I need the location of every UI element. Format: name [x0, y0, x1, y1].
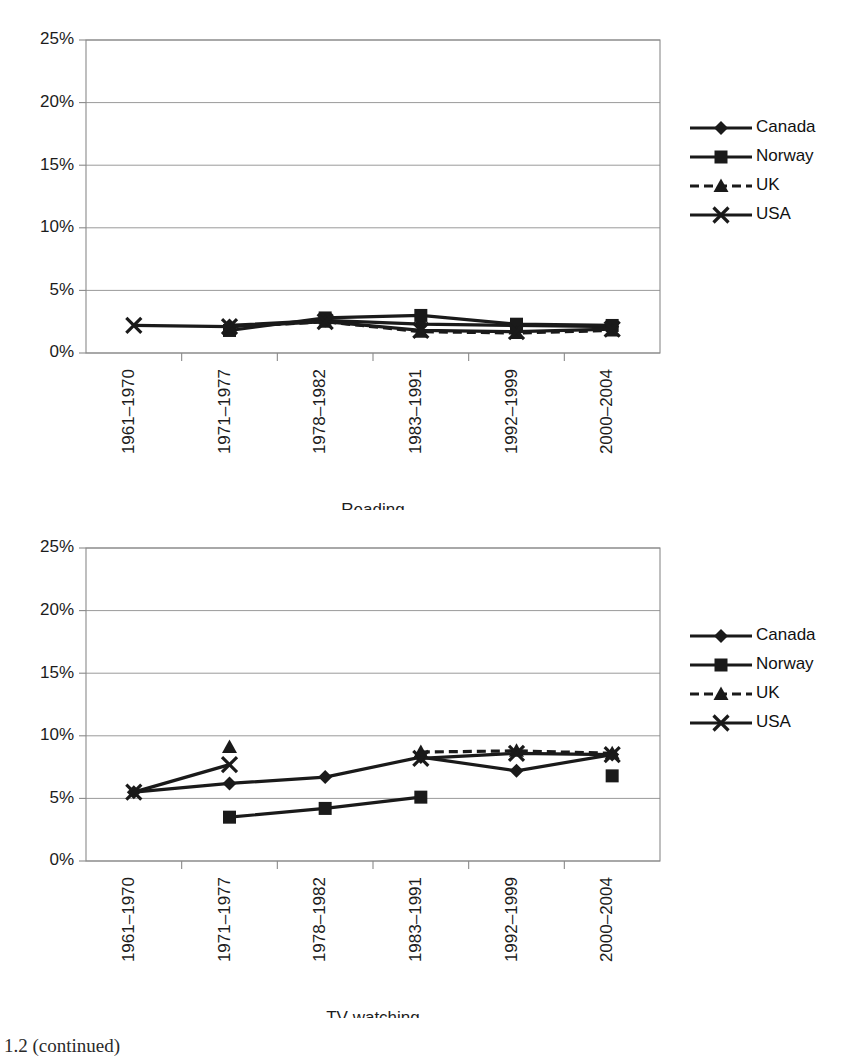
legend-label-usa: USA	[756, 204, 792, 223]
chart-reading-svg: 0%5%10%15%20%25%1961–19701971–19771978–1…	[0, 10, 856, 510]
x-tick-label-5: 2000–2004	[597, 369, 616, 454]
x-tick-label-0: 1961–1970	[119, 369, 138, 454]
x-tick-label-1: 1971–1977	[215, 877, 234, 962]
legend-norway-square-marker	[715, 151, 728, 164]
y-tick-label-20%: 20%	[40, 600, 74, 619]
series-norway-point-2-square-marker	[319, 802, 332, 815]
series-group	[126, 309, 619, 339]
legend-item-norway[interactable]: Norway	[690, 654, 814, 673]
x-tick-label-2: 1978–1982	[310, 877, 329, 962]
x-axis: 1961–19701971–19771978–19821983–19911992…	[119, 861, 616, 962]
series-norway-point-3-square-marker	[414, 791, 427, 804]
legend-item-usa[interactable]: USA	[690, 204, 792, 223]
x-tick-label-2: 1978–1982	[310, 369, 329, 454]
y-tick-label-5%: 5%	[49, 280, 74, 299]
y-gridlines: 0%5%10%15%20%25%	[40, 29, 660, 361]
series-norway-point-1-square-marker	[223, 811, 236, 824]
x-tick-label-3: 1983–1991	[406, 369, 425, 454]
chart-tv-watching: 0%5%10%15%20%25%1961–19701971–19771978–1…	[0, 518, 856, 1018]
legend-label-norway: Norway	[756, 146, 814, 165]
legend-item-canada[interactable]: Canada	[690, 625, 816, 644]
y-tick-label-10%: 10%	[40, 217, 74, 236]
x-tick-label-4: 1992–1999	[502, 369, 521, 454]
chart-tv-watching-svg: 0%5%10%15%20%25%1961–19701971–19771978–1…	[0, 518, 856, 1018]
series-norway-point-5-square-marker	[606, 769, 619, 782]
legend-norway-square-marker	[715, 659, 728, 672]
chart-legend: CanadaNorwayUKUSA	[690, 117, 816, 223]
series-canada-line	[134, 755, 612, 793]
legend-label-canada: Canada	[756, 625, 816, 644]
y-tick-label-25%: 25%	[40, 537, 74, 556]
legend-label-uk: UK	[756, 175, 780, 194]
legend-item-canada[interactable]: Canada	[690, 117, 816, 136]
legend-label-canada: Canada	[756, 117, 816, 136]
y-tick-label-25%: 25%	[40, 29, 74, 48]
chart-axis-title: TV watching	[326, 1008, 420, 1018]
legend-item-usa[interactable]: USA	[690, 712, 792, 731]
chart-legend: CanadaNorwayUKUSA	[690, 625, 816, 731]
y-tick-label-10%: 10%	[40, 725, 74, 744]
y-tick-label-20%: 20%	[40, 92, 74, 111]
legend-canada-diamond-marker	[714, 629, 728, 643]
x-tick-label-4: 1992–1999	[502, 877, 521, 962]
x-tick-label-3: 1983–1991	[406, 877, 425, 962]
legend-item-uk[interactable]: UK	[690, 683, 780, 702]
legend-label-norway: Norway	[756, 654, 814, 673]
series-norway-point-3-square-marker	[414, 309, 427, 322]
series-canada-point-2-diamond-marker	[318, 770, 332, 784]
y-tick-label-15%: 15%	[40, 663, 74, 682]
x-tick-label-0: 1961–1970	[119, 877, 138, 962]
legend-label-usa: USA	[756, 712, 792, 731]
y-tick-label-0%: 0%	[49, 342, 74, 361]
series-canada-point-4-diamond-marker	[510, 764, 524, 778]
series-canada-point-1-diamond-marker	[223, 776, 237, 790]
chart-axis-title: Reading	[341, 500, 404, 510]
y-tick-label-5%: 5%	[49, 788, 74, 807]
y-tick-label-0%: 0%	[49, 850, 74, 869]
series-uk-point-1-triangle-marker	[222, 740, 237, 754]
legend-item-norway[interactable]: Norway	[690, 146, 814, 165]
x-tick-label-5: 2000–2004	[597, 877, 616, 962]
x-axis: 1961–19701971–19771978–19821983–19911992…	[119, 353, 616, 454]
x-tick-label-1: 1971–1977	[215, 369, 234, 454]
plot-area-border	[86, 548, 660, 861]
legend-canada-diamond-marker	[714, 121, 728, 135]
series-group	[126, 740, 619, 824]
chart-reading: 0%5%10%15%20%25%1961–19701971–19771978–1…	[0, 10, 856, 510]
legend-item-uk[interactable]: UK	[690, 175, 780, 194]
y-tick-label-15%: 15%	[40, 155, 74, 174]
legend-label-uk: UK	[756, 683, 780, 702]
y-gridlines: 0%5%10%15%20%25%	[40, 537, 660, 869]
figure-caption: 1.2 (continued)	[4, 1035, 120, 1057]
plot-area-border	[86, 40, 660, 353]
